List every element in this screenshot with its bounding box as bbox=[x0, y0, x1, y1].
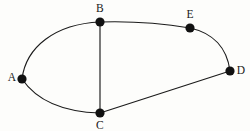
edge-b-e bbox=[100, 22, 190, 28]
vertex-dot-c bbox=[95, 108, 104, 117]
edge-layer bbox=[22, 22, 230, 113]
vertex-dot-a bbox=[17, 74, 26, 83]
vertex-label-e: E bbox=[186, 9, 193, 21]
vertex-label-a: A bbox=[8, 72, 17, 84]
edge-a-c bbox=[22, 79, 100, 113]
vertex-label-b: B bbox=[96, 3, 104, 15]
edge-e-d bbox=[190, 28, 230, 71]
graph-svg bbox=[0, 0, 250, 131]
vertex-label-d: D bbox=[237, 65, 246, 77]
edge-a-b bbox=[22, 22, 100, 79]
vertex-label-c: C bbox=[96, 120, 104, 131]
edge-c-d bbox=[100, 71, 230, 113]
vertex-dot-d bbox=[225, 66, 234, 75]
vertex-dot-b bbox=[95, 17, 104, 26]
graph-diagram-canvas: A B C D E bbox=[0, 0, 250, 131]
vertex-dot-e bbox=[185, 23, 194, 32]
